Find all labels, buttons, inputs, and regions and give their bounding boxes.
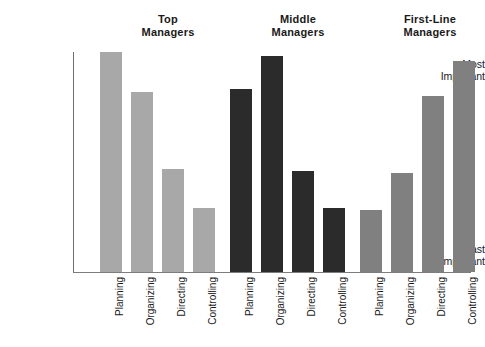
bar-first-line-managers-directing bbox=[422, 96, 444, 272]
bar-first-line-managers-planning bbox=[360, 210, 382, 272]
group-title-top-managers: Top Managers bbox=[118, 13, 218, 39]
category-label-first-line-managers-directing: Directing bbox=[437, 277, 447, 316]
bar-top-managers-directing bbox=[162, 169, 184, 272]
bar-first-line-managers-organizing bbox=[391, 173, 413, 272]
bar-chart: Top Managers Middle Managers First-Line … bbox=[0, 0, 485, 347]
category-label-top-managers-planning: Planning bbox=[115, 277, 125, 316]
category-label-top-managers-controlling: Controlling bbox=[208, 277, 218, 325]
category-label-middle-managers-controlling: Controlling bbox=[338, 277, 348, 325]
category-label-top-managers-directing: Directing bbox=[177, 277, 187, 316]
category-label-middle-managers-organizing: Organizing bbox=[276, 277, 286, 325]
bar-middle-managers-organizing bbox=[261, 56, 283, 272]
category-label-first-line-managers-controlling: Controlling bbox=[468, 277, 478, 325]
bar-middle-managers-planning bbox=[230, 89, 252, 272]
category-label-middle-managers-directing: Directing bbox=[307, 277, 317, 316]
group-title-middle-managers: Middle Managers bbox=[248, 13, 348, 39]
category-label-middle-managers-planning: Planning bbox=[245, 277, 255, 316]
bar-first-line-managers-controlling bbox=[453, 61, 475, 272]
group-title-first-line-managers: First-Line Managers bbox=[378, 13, 482, 39]
plot-area bbox=[73, 52, 471, 272]
x-axis-line bbox=[73, 272, 471, 273]
bar-top-managers-organizing bbox=[131, 92, 153, 272]
bar-top-managers-planning bbox=[100, 52, 122, 272]
category-label-top-managers-organizing: Organizing bbox=[146, 277, 156, 325]
category-label-first-line-managers-planning: Planning bbox=[375, 277, 385, 316]
category-label-first-line-managers-organizing: Organizing bbox=[406, 277, 416, 325]
bar-middle-managers-controlling bbox=[323, 208, 345, 272]
bar-top-managers-controlling bbox=[193, 208, 215, 272]
bar-middle-managers-directing bbox=[292, 171, 314, 272]
